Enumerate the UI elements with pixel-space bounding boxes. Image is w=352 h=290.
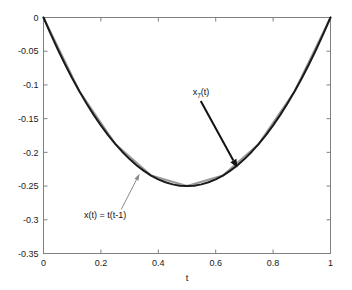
x-tick-label: 1 xyxy=(328,258,333,268)
y-tick-label: -0.3 xyxy=(23,215,39,225)
y-tick-label: -0.35 xyxy=(18,249,39,259)
figure-container: 0-0.05-0.1-0.15-0.2-0.25-0.3-0.35 00.20.… xyxy=(0,0,352,290)
annotation-x7: x7(t) xyxy=(193,87,210,99)
x-tick-label: 0.4 xyxy=(152,258,165,268)
chart-canvas: 0-0.05-0.1-0.15-0.2-0.25-0.3-0.35 00.20.… xyxy=(0,0,352,290)
y-tick-label: -0.25 xyxy=(18,181,39,191)
y-tick-label: -0.1 xyxy=(23,80,39,90)
y-tick-label: -0.05 xyxy=(18,46,39,56)
y-tick-label: -0.15 xyxy=(18,114,39,124)
annotation-formula: x(t) = t(t-1) xyxy=(84,210,126,220)
x-axis-label: t xyxy=(186,272,189,283)
x-tick-label: 0 xyxy=(41,258,46,268)
x-tick-label: 0.2 xyxy=(95,258,108,268)
x-tick-label: 0.6 xyxy=(209,258,222,268)
y-tick-label: -0.2 xyxy=(23,148,39,158)
y-tick-label: 0 xyxy=(33,13,38,23)
x-tick-label: 0.8 xyxy=(267,258,280,268)
annotation-x7-suffix: (t) xyxy=(201,87,210,97)
